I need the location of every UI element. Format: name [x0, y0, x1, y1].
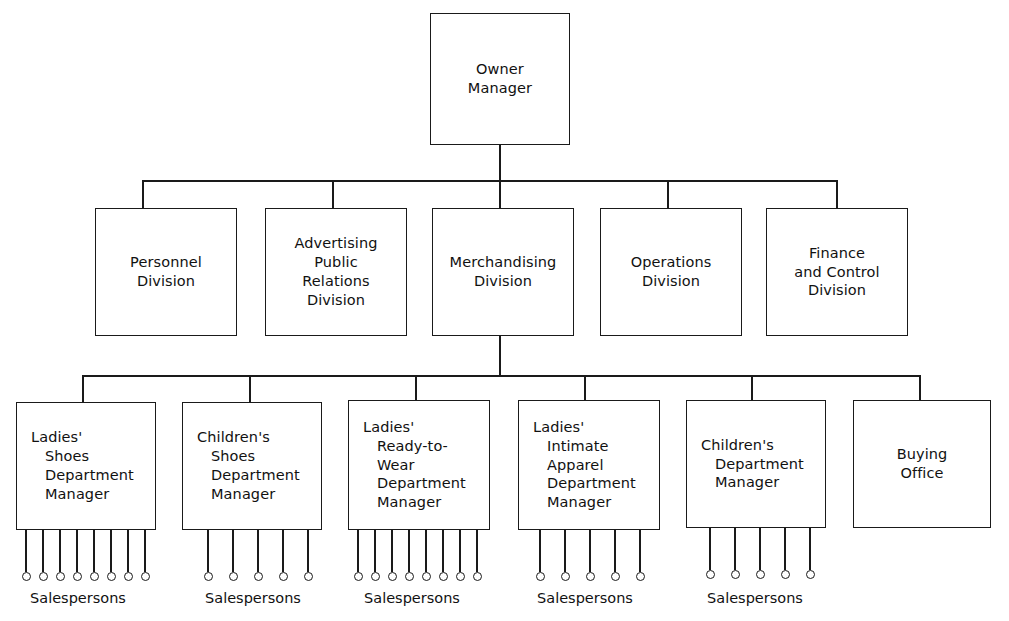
salesperson-node-icon [781, 570, 790, 579]
salesperson-node-icon [204, 572, 213, 581]
salesperson-node-icon [371, 572, 380, 581]
salesperson-node-icon [756, 570, 765, 579]
tier2-tier3-connector-trunk [499, 336, 501, 375]
salespersons-caption: Salespersons [505, 590, 665, 606]
salesperson-node-icon [561, 572, 570, 581]
salesperson-node-icon [388, 572, 397, 581]
node-label-ladies-shoes-department-manager: Ladies'ShoesDepartmentManager [17, 428, 155, 503]
salespersons-caption: Salespersons [332, 590, 492, 606]
salesperson-node-icon [39, 572, 48, 581]
salesperson-node-icon [706, 570, 715, 579]
salesperson-node-icon [90, 572, 99, 581]
tier2-tier3-connector-drop-3 [584, 375, 586, 402]
salesperson-stem [809, 528, 811, 570]
tier1-tier2-connector-drop-4 [836, 180, 838, 208]
salesperson-stem [391, 530, 393, 572]
salespersons-caption: Salespersons [173, 590, 333, 606]
salesperson-node-icon [422, 572, 431, 581]
node-childrens-department-manager[interactable]: Children'sDepartmentManager [686, 400, 826, 528]
node-label-merchandising-division: Merchandising Division [433, 253, 573, 291]
node-operations-division[interactable]: Operations Division [600, 208, 742, 336]
node-childrens-shoes-department-manager[interactable]: Children'sShoesDepartmentManager [182, 402, 322, 530]
node-ladies-ready-to-wear-department-manager[interactable]: Ladies'Ready-to-WearDepartmentManager [348, 400, 490, 530]
salesperson-node-icon [456, 572, 465, 581]
salesperson-stem [539, 530, 541, 572]
tier1-tier2-connector-bus [143, 180, 837, 182]
salesperson-stem [374, 530, 376, 572]
node-buying-office[interactable]: Buying Office [853, 400, 991, 528]
tier2-tier3-connector-drop-5 [919, 375, 921, 402]
node-label-ladies-intimate-apparel-department-manager: Ladies'IntimateApparelDepartmentManager [519, 418, 659, 512]
salesperson-stem [784, 528, 786, 570]
salesperson-stem [709, 528, 711, 570]
salesperson-stem [734, 528, 736, 570]
node-label-advertising-public-relations-division: Advertising Public Relations Division [266, 234, 406, 309]
salesperson-stem [257, 530, 259, 572]
salesperson-stem [589, 530, 591, 572]
node-label-childrens-shoes-department-manager: Children'sShoesDepartmentManager [183, 428, 321, 503]
salesperson-node-icon [731, 570, 740, 579]
node-finance-and-control-division[interactable]: Finance and Control Division [766, 208, 908, 336]
node-ladies-intimate-apparel-department-manager[interactable]: Ladies'IntimateApparelDepartmentManager [518, 400, 660, 530]
salesperson-node-icon [806, 570, 815, 579]
salesperson-node-icon [229, 572, 238, 581]
node-label-owner-manager: Owner Manager [431, 60, 569, 98]
salesperson-node-icon [536, 572, 545, 581]
salesperson-node-icon [124, 572, 133, 581]
salesperson-stem [408, 530, 410, 572]
salesperson-stem [282, 530, 284, 572]
salesperson-stem [207, 530, 209, 572]
salesperson-node-icon [22, 572, 31, 581]
salespersons-caption: Salespersons [675, 590, 835, 606]
tier1-tier2-connector-trunk [499, 145, 501, 180]
salesperson-node-icon [354, 572, 363, 581]
salesperson-stem [425, 530, 427, 572]
node-owner-manager[interactable]: Owner Manager [430, 13, 570, 145]
tier1-tier2-connector-drop-0 [142, 180, 144, 208]
node-ladies-shoes-department-manager[interactable]: Ladies'ShoesDepartmentManager [16, 402, 156, 530]
node-label-finance-and-control-division: Finance and Control Division [767, 244, 907, 301]
salesperson-node-icon [611, 572, 620, 581]
tier1-tier2-connector-drop-3 [667, 180, 669, 208]
salesperson-stem [459, 530, 461, 572]
salesperson-stem [307, 530, 309, 572]
node-personnel-division[interactable]: Personnel Division [95, 208, 237, 336]
node-label-buying-office: Buying Office [854, 445, 990, 483]
node-advertising-public-relations-division[interactable]: Advertising Public Relations Division [265, 208, 407, 336]
salesperson-node-icon [636, 572, 645, 581]
salesperson-stem [232, 530, 234, 572]
salesperson-stem [25, 530, 27, 572]
salesperson-node-icon [405, 572, 414, 581]
salesperson-node-icon [304, 572, 313, 581]
salesperson-stem [76, 530, 78, 572]
salesperson-stem [357, 530, 359, 572]
salesperson-stem [639, 530, 641, 572]
node-merchandising-division[interactable]: Merchandising Division [432, 208, 574, 336]
node-label-childrens-department-manager: Children'sDepartmentManager [687, 436, 825, 493]
tier1-tier2-connector-drop-1 [332, 180, 334, 208]
org-chart-canvas: Owner ManagerPersonnel DivisionAdvertisi… [0, 0, 1009, 621]
salesperson-stem [93, 530, 95, 572]
salesperson-node-icon [254, 572, 263, 581]
node-label-operations-division: Operations Division [601, 253, 741, 291]
salesperson-node-icon [56, 572, 65, 581]
node-label-ladies-ready-to-wear-department-manager: Ladies'Ready-to-WearDepartmentManager [349, 418, 489, 512]
salesperson-stem [127, 530, 129, 572]
node-label-personnel-division: Personnel Division [96, 253, 236, 291]
salespersons-caption: Salespersons [0, 590, 158, 606]
salesperson-stem [614, 530, 616, 572]
tier2-tier3-connector-drop-1 [249, 375, 251, 402]
salesperson-stem [110, 530, 112, 572]
tier2-tier3-connector-drop-0 [82, 375, 84, 402]
salesperson-node-icon [279, 572, 288, 581]
salesperson-node-icon [473, 572, 482, 581]
tier2-tier3-connector-drop-2 [415, 375, 417, 402]
salesperson-stem [759, 528, 761, 570]
salesperson-stem [59, 530, 61, 572]
salesperson-node-icon [439, 572, 448, 581]
salesperson-stem [442, 530, 444, 572]
salesperson-node-icon [73, 572, 82, 581]
salesperson-node-icon [586, 572, 595, 581]
salesperson-node-icon [107, 572, 116, 581]
salesperson-node-icon [141, 572, 150, 581]
